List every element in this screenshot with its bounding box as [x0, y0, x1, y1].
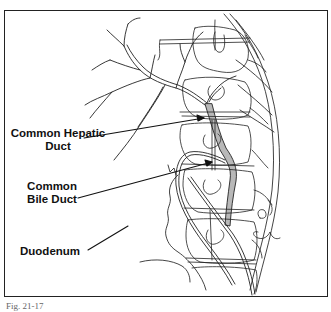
biliary-spine-drawing	[0, 0, 331, 312]
psoas-lines	[224, 14, 280, 292]
figure-caption: Fig. 21-17	[6, 301, 44, 311]
transverse-processes	[245, 35, 272, 258]
label-duodenum: Duodenum	[20, 245, 88, 258]
label-common-hepatic-duct: Common Hepatic Duct	[6, 127, 110, 153]
vertebrae	[160, 20, 257, 294]
label-common-bile-duct: Common Bile Duct	[22, 180, 82, 206]
